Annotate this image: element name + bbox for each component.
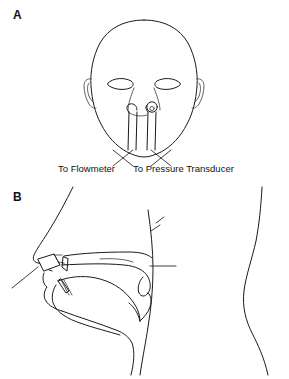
posterior-pharyngeal-wall <box>140 210 153 375</box>
tube-flowmeter-wall-right <box>136 112 137 150</box>
panel-b-drawing <box>0 185 289 379</box>
panel-a: A <box>0 0 289 190</box>
soft-palate-highlight <box>100 259 133 262</box>
ear-right <box>192 79 204 108</box>
nose-bridge-left <box>128 88 134 110</box>
eye-right <box>155 79 180 90</box>
back-of-head-contour <box>243 187 268 375</box>
tube-transducer-wall-right <box>155 112 156 150</box>
tube-transducer-wall-left <box>147 112 148 150</box>
label-to-flowmeter: To Flowmeter <box>58 163 115 174</box>
soft-palate <box>62 264 150 296</box>
ear-left <box>84 79 96 108</box>
facial-profile <box>33 187 73 263</box>
cork-plug <box>38 254 60 271</box>
leader-line-cork <box>12 267 38 288</box>
tube-flowmeter-wall-left <box>128 112 129 150</box>
label-to-pressure-transducer: To Pressure Transducer <box>133 163 234 174</box>
head-outline <box>91 20 197 157</box>
nose-base <box>128 112 147 116</box>
hard-palate <box>64 252 152 258</box>
eye-left <box>108 79 133 90</box>
leader-line-ppw <box>151 225 160 231</box>
figure-root: A <box>0 0 289 379</box>
leader-line-ppw-tick <box>156 217 164 223</box>
panel-a-drawing <box>0 0 289 190</box>
panel-b: B <box>0 185 289 379</box>
